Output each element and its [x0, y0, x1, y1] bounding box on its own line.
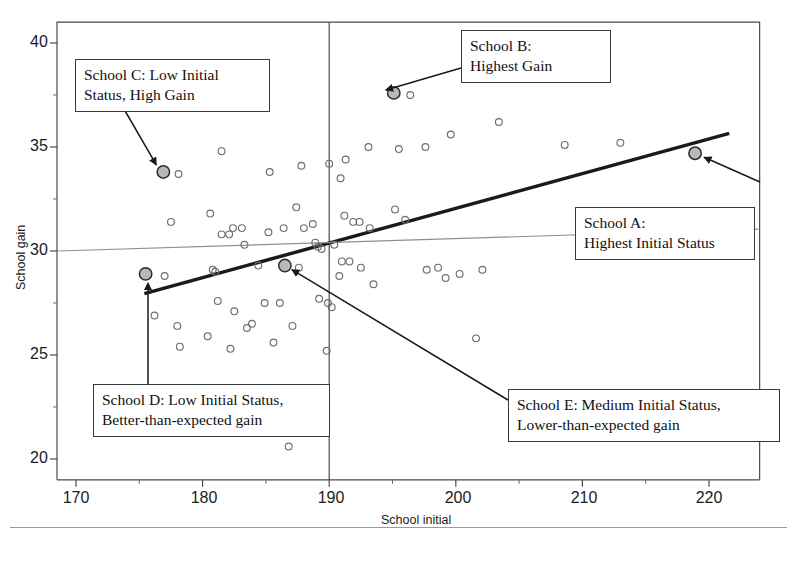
callout-school-b: School B: Highest Gain — [461, 30, 611, 83]
callout-school-c-line1: School C: Low Initial — [84, 65, 261, 85]
callout-school-e-line1: School E: Medium Initial Status, — [517, 395, 771, 415]
xtick-220: 220 — [683, 489, 735, 507]
ytick-20: 20 — [22, 449, 56, 467]
ytick-35: 35 — [22, 137, 56, 155]
xtick-170: 170 — [50, 489, 102, 507]
callout-school-a: School A: Highest Initial Status — [575, 207, 755, 260]
xtick-200: 200 — [432, 489, 484, 507]
arrow-school-b — [386, 68, 461, 90]
y-axis-title: School gain — [14, 225, 28, 290]
xtick-180: 180 — [178, 489, 230, 507]
arrow-school-c — [124, 109, 156, 165]
ytick-40: 40 — [22, 33, 56, 51]
callout-school-d: School D: Low Initial Status, Better-tha… — [93, 384, 330, 437]
xtick-210: 210 — [558, 489, 610, 507]
callout-school-d-line2: Better-than-expected gain — [102, 410, 321, 430]
callout-school-e-line2: Lower-than-expected gain — [517, 415, 771, 435]
callout-school-b-line1: School B: — [470, 36, 602, 56]
callout-school-a-line1: School A: — [584, 213, 746, 233]
callout-school-b-line2: Highest Gain — [470, 56, 602, 76]
arrow-school-a — [704, 157, 760, 182]
footer-divider — [10, 527, 787, 528]
ytick-25: 25 — [22, 345, 56, 363]
x-axis-title: School initial — [381, 513, 451, 527]
callout-school-d-line1: School D: Low Initial Status, — [102, 390, 321, 410]
callout-school-c: School C: Low Initial Status, High Gain — [75, 59, 270, 112]
xtick-190: 190 — [305, 489, 357, 507]
callout-school-a-line2: Highest Initial Status — [584, 233, 746, 253]
figure-panel: 40 35 30 25 20 170 180 190 200 210 220 S… — [0, 0, 797, 563]
callout-school-c-line2: Status, High Gain — [84, 85, 261, 105]
callout-school-e: School E: Medium Initial Status, Lower-t… — [508, 389, 780, 442]
